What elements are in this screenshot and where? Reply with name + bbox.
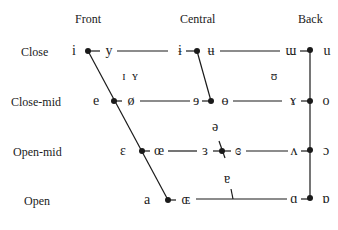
row-label-close: Close xyxy=(21,46,48,58)
vowel-mid-central: ə xyxy=(212,120,218,134)
vowel-trapezoid-lines xyxy=(0,0,338,230)
front-edge-line xyxy=(88,51,168,200)
vowel-close-front-rounded: y xyxy=(106,44,113,58)
column-label-central: Central xyxy=(180,13,215,25)
vowel-near-open-central: ɐ xyxy=(224,172,230,186)
vowel-open-back-unrounded: ɑ xyxy=(290,192,297,206)
ipa-vowel-chart: Front Central Back Close Close-mid Open-… xyxy=(0,0,338,230)
vowel-close-central-unrounded: ɨ xyxy=(178,44,182,58)
vowel-close-back-rounded: u xyxy=(324,44,331,58)
row-label-open-mid: Open-mid xyxy=(13,146,62,158)
vowel-open-mid-central-rounded: ɞ xyxy=(235,144,241,158)
vowel-open-front-unrounded: a xyxy=(144,193,150,207)
vowel-close-back-unrounded: ɯ xyxy=(286,44,297,58)
vowel-open-mid-front-rounded: œ xyxy=(154,144,164,158)
vowel-close-central-rounded: ʉ xyxy=(208,44,215,58)
vowel-near-close-front-unrounded: ɪ xyxy=(122,70,125,82)
vowel-near-close-front-rounded: ʏ xyxy=(132,70,138,82)
vowel-close-front-unrounded: i xyxy=(72,44,76,58)
row-label-open: Open xyxy=(24,195,50,207)
column-label-back: Back xyxy=(298,13,323,25)
vowel-open-mid-back-rounded: ɔ xyxy=(323,144,329,158)
vowel-close-mid-front-rounded: ø xyxy=(128,94,135,108)
vowel-open-mid-front-unrounded: ɛ xyxy=(120,144,126,158)
row-label-close-mid: Close-mid xyxy=(11,96,61,108)
vowel-open-mid-central-unrounded: ɜ xyxy=(202,144,208,158)
vowel-close-mid-back-rounded: o xyxy=(323,94,330,108)
column-label-front: Front xyxy=(75,13,101,25)
vowel-open-front-rounded: ɶ xyxy=(182,193,191,207)
vowel-open-mid-back-unrounded: ʌ xyxy=(291,144,298,158)
vowel-close-mid-back-unrounded: ɤ xyxy=(290,94,296,108)
vowel-open-back-rounded: ɒ xyxy=(322,192,329,206)
vowel-dots xyxy=(85,47,313,203)
vowel-near-close-back-rounded: ʊ xyxy=(271,70,278,82)
vowel-close-mid-central-rounded: ɵ xyxy=(222,94,229,108)
vowel-close-mid-front-unrounded: e xyxy=(93,94,99,108)
vowel-close-mid-central-unrounded: ɘ xyxy=(193,94,199,108)
near-open-central-tick xyxy=(231,189,233,199)
